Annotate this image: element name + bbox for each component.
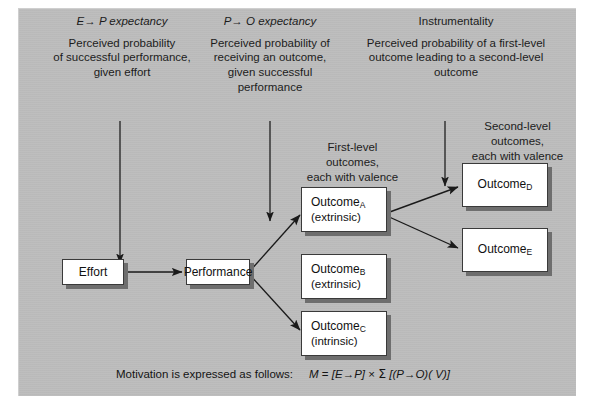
- header-ep-title-post: P expectancy: [99, 15, 168, 27]
- box-outcome-d-sub: D: [526, 182, 532, 192]
- formula-ep-term: [E→P]: [332, 368, 365, 380]
- right-arrow-icon: →: [84, 14, 96, 29]
- box-outcome-d[interactable]: OutcomeD: [462, 163, 548, 207]
- header-instrumentality-line-2: outcome leading to a second-level: [337, 50, 575, 65]
- box-outcome-c-sub: C: [360, 324, 366, 334]
- formula-times: ×: [368, 368, 375, 380]
- box-performance[interactable]: Performance: [186, 259, 250, 285]
- header-po-line-1: Perceived probability of: [185, 36, 355, 51]
- box-effort[interactable]: Effort: [62, 259, 124, 285]
- label-first-level-line-1: First-level: [285, 140, 420, 155]
- label-first-level-line-2: outcomes,: [285, 155, 420, 170]
- box-outcome-c[interactable]: OutcomeC (intrinsic): [301, 311, 387, 356]
- box-outcome-c-paren: (intrinsic): [311, 334, 366, 348]
- box-outcome-e-sub: E: [527, 247, 533, 257]
- label-second-level-line-3: each with valence: [455, 149, 580, 164]
- header-po-line-4: performance: [185, 80, 355, 95]
- header-instrumentality-line-3: outcome: [337, 65, 575, 80]
- label-second-level-line-2: outcomes,: [455, 134, 580, 149]
- header-po-line-3: given successful: [185, 65, 355, 80]
- box-outcome-e-label: Outcome: [478, 242, 527, 256]
- box-outcome-b-sub: B: [360, 267, 366, 277]
- formula-m: M: [309, 368, 319, 380]
- header-ep-title-pre: E: [77, 15, 85, 27]
- header-po-title-pre: P: [224, 15, 232, 27]
- header-po-title: P→ O expectancy: [185, 14, 355, 29]
- box-outcome-a-paren: (extrinsic): [311, 210, 365, 224]
- box-outcome-b-label: Outcome: [311, 262, 360, 276]
- header-po-line-2: receiving an outcome,: [185, 50, 355, 65]
- expectancy-theory-figure: E→ P expectancy Perceived probability of…: [0, 0, 591, 418]
- box-performance-label: Performance: [184, 265, 253, 280]
- box-effort-label: Effort: [79, 265, 107, 280]
- formula-po-term: [(P→O)( V)]: [389, 368, 450, 380]
- header-instrumentality: Instrumentality Perceived probability of…: [337, 14, 575, 80]
- box-outcome-a-sub: A: [360, 200, 366, 210]
- formula-equals: =: [322, 368, 329, 380]
- label-second-level-line-1: Second-level: [455, 119, 580, 134]
- box-outcome-b-paren: (extrinsic): [311, 277, 365, 291]
- motivation-formula: Motivation is expressed as follows: M = …: [116, 366, 450, 381]
- header-po-title-post: O expectancy: [246, 15, 316, 27]
- box-outcome-a-label: Outcome: [311, 195, 360, 209]
- label-first-level-outcomes: First-level outcomes, each with valence: [285, 140, 420, 185]
- header-po-expectancy: P→ O expectancy Perceived probability of…: [185, 14, 355, 95]
- right-arrow-icon: →: [231, 14, 243, 29]
- figure-caption: [22, 404, 582, 416]
- header-instrumentality-line-1: Perceived probability of a first-level: [337, 36, 575, 51]
- formula-sigma: Σ: [378, 366, 386, 381]
- box-outcome-d-label: Outcome: [478, 177, 527, 191]
- box-outcome-e[interactable]: OutcomeE: [462, 228, 548, 272]
- box-outcome-c-label: Outcome: [311, 319, 360, 333]
- formula-lead: Motivation is expressed as follows:: [116, 368, 293, 380]
- box-outcome-b[interactable]: OutcomeB (extrinsic): [301, 254, 387, 299]
- label-second-level-outcomes: Second-level outcomes, each with valence: [455, 119, 580, 164]
- box-outcome-a[interactable]: OutcomeA (extrinsic): [301, 187, 387, 232]
- label-first-level-line-3: each with valence: [285, 170, 420, 185]
- header-instrumentality-title: Instrumentality: [337, 14, 575, 29]
